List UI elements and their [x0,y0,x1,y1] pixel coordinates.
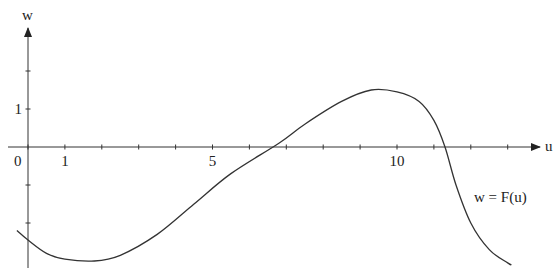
y-axis: 1 w [15,7,34,268]
x-tick-label: 5 [209,153,217,169]
curve-label: w = F(u) [474,189,527,206]
y-axis-label: w [22,7,33,23]
chart: 01510 u 1 w w = F(u) [0,0,554,279]
y-tick-label: 1 [15,101,23,117]
x-tick-label: 0 [14,153,22,169]
y-tick-labels: 1 [15,101,23,117]
x-tick-labels: 01510 [14,153,405,169]
x-tick-label: 1 [61,153,69,169]
curve-w-equals-F-of-u [17,89,512,264]
x-axis-label: u [545,138,553,154]
x-tick-label: 10 [390,153,405,169]
